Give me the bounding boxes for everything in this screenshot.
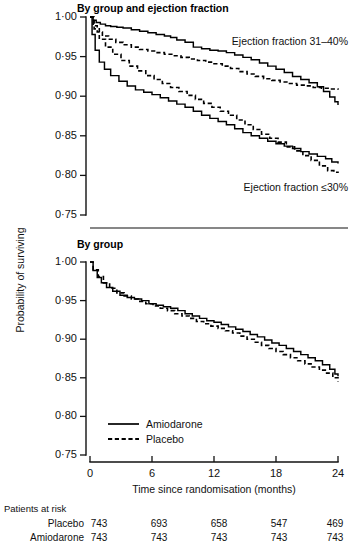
panel-bottom-curves (90, 262, 338, 382)
xtick-18: 18 (270, 467, 282, 479)
annotation-ef-30: Ejection fraction ≤30% (244, 181, 348, 193)
panel-bottom-ytick-0.85: 0·85 (55, 371, 77, 383)
risk-value: 743 (271, 532, 288, 543)
risk-value: 743 (91, 518, 108, 529)
panel-top-ytick-0.95: 0·95 (55, 50, 77, 62)
survival-curve (90, 17, 338, 105)
risk-table-heading: Patients at risk (4, 503, 67, 514)
annotation-ef-31-40: Ejection fraction 31–40% (232, 35, 348, 47)
risk-value: 743 (91, 532, 108, 543)
panel-top-ytick-1.00: 1·00 (55, 10, 77, 22)
panel-bottom-y-ticks (80, 262, 86, 455)
risk-value: 743 (211, 532, 228, 543)
x-axis: 0 6 12 18 24 Time since randomisation (m… (87, 456, 344, 495)
panel-bottom-ytick-0.75: 0·75 (55, 448, 77, 460)
risk-value: 658 (211, 518, 228, 529)
legend-label-amiodarone: Amiodarone (146, 418, 203, 430)
panel-top-title: By group and ejection fraction (77, 2, 229, 14)
figure-canvas: Probability of surviving By group and ej… (0, 0, 351, 548)
risk-value: 469 (327, 518, 344, 529)
panel-top-ytick-0.85: 0·85 (55, 129, 77, 141)
panel-bottom: By group 1·00 0·95 0·90 0·85 0·80 0·75 (55, 238, 344, 495)
xtick-24: 24 (332, 467, 344, 479)
panel-bottom-y-axis: 1·00 0·95 0·90 0·85 0·80 0·75 (55, 255, 86, 460)
xtick-0: 0 (87, 467, 93, 479)
risk-table-row-placebo: Placebo 743 693 658 547 469 (48, 518, 344, 529)
panel-bottom-ytick-0.80: 0·80 (55, 409, 77, 421)
xtick-12: 12 (208, 467, 220, 479)
survival-curve (90, 262, 338, 376)
y-axis-label: Probability of surviving (14, 227, 26, 332)
panel-top-ytick-0.80: 0·80 (55, 168, 77, 180)
panel-top: By group and ejection fraction 1·00 0·95… (55, 2, 348, 220)
legend: Amiodarone Placebo (108, 418, 203, 445)
panel-top-y-ticks (80, 17, 86, 215)
risk-value: 693 (151, 518, 168, 529)
survival-figure: Probability of surviving By group and ej… (0, 0, 351, 548)
risk-table-row-amiodarone: Amiodarone 743 743 743 743 743 (30, 532, 344, 543)
panel-bottom-ytick-0.95: 0·95 (55, 294, 77, 306)
x-axis-label: Time since randomisation (months) (132, 483, 296, 495)
panel-bottom-ytick-0.90: 0·90 (55, 332, 77, 344)
xtick-6: 6 (149, 467, 155, 479)
panel-top-y-axis: 1·00 0·95 0·90 0·85 0·80 0·75 (55, 10, 86, 220)
x-ticks (90, 456, 338, 462)
panel-bottom-ytick-1.00: 1·00 (55, 255, 77, 267)
panel-top-ytick-0.75: 0·75 (55, 208, 77, 220)
panel-top-ytick-0.90: 0·90 (55, 89, 77, 101)
panel-bottom-title: By group (77, 238, 123, 250)
risk-value: 743 (151, 532, 168, 543)
risk-row-label-placebo: Placebo (48, 518, 85, 529)
risk-table: Patients at risk Placebo 743 693 658 547… (4, 503, 344, 543)
risk-row-label-amiodarone: Amiodarone (30, 532, 84, 543)
risk-value: 743 (327, 532, 344, 543)
risk-value: 547 (271, 518, 288, 529)
legend-label-placebo: Placebo (146, 433, 184, 445)
